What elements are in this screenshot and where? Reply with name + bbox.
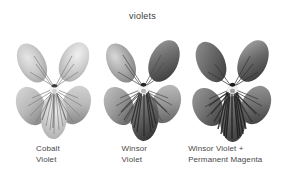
swatch-label-line-1: Winsor Violet + bbox=[188, 144, 274, 155]
swatch-label-line-1: Cobalt bbox=[36, 144, 102, 155]
swatch-label-winsor-violet: Winsor Violet bbox=[102, 144, 188, 165]
violet-flower-illustration bbox=[190, 34, 274, 142]
violet-pigment-chart: violets bbox=[0, 0, 285, 179]
swatch-label-line-1: Winsor bbox=[122, 144, 188, 155]
swatch-label-row: Cobalt Violet Winsor Violet Winsor Viole… bbox=[12, 144, 274, 165]
swatch-label-cobalt-violet: Cobalt Violet bbox=[12, 144, 102, 165]
flower-plate-cobalt-violet bbox=[12, 34, 96, 142]
swatch-label-line-2: Permanent Magenta bbox=[188, 155, 274, 166]
swatch-label-line-2: Violet bbox=[122, 155, 188, 166]
swatch-label-line-2: Violet bbox=[36, 155, 102, 166]
flower-plate-winsor-violet bbox=[101, 34, 185, 142]
flower-plate-row bbox=[12, 34, 274, 142]
violet-flower-illustration bbox=[101, 34, 185, 142]
violet-flower-illustration bbox=[12, 34, 96, 142]
swatch-label-winsor-violet-permanent-magenta: Winsor Violet + Permanent Magenta bbox=[187, 144, 274, 165]
page-title: violets bbox=[0, 11, 285, 21]
flower-plate-winsor-violet-permanent-magenta bbox=[190, 34, 274, 142]
